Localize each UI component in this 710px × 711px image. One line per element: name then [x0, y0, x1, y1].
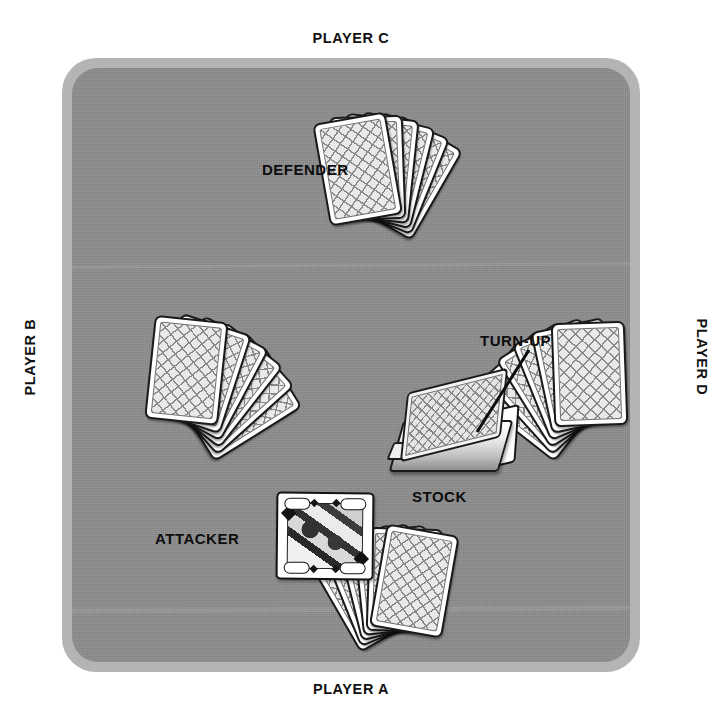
player-label-a: PLAYER A [0, 681, 702, 697]
attacker-label: ATTACKER [155, 530, 239, 547]
turn-up-leader-line [467, 348, 537, 438]
played-card[interactable] [276, 491, 375, 580]
card-corner-index [340, 498, 366, 510]
card-back-pattern [376, 530, 453, 631]
card-corner-index [284, 562, 310, 574]
card-table-rim: D DEFENDER ATTACKER STOCK TURN-UP [62, 58, 640, 672]
stock-label: STOCK [412, 488, 467, 505]
defender-label: DEFENDER [262, 161, 349, 178]
card-back[interactable] [144, 315, 228, 426]
player-label-d: PLAYER D [694, 297, 710, 417]
card-corner-index [284, 498, 310, 510]
card-back-pattern [151, 321, 222, 419]
played-card-frame [287, 503, 364, 570]
card-back-pattern [557, 327, 622, 421]
card-table-felt: D DEFENDER ATTACKER STOCK TURN-UP [72, 68, 630, 662]
player-label-b: PLAYER B [22, 297, 38, 417]
turn-up-label: TURN-UP [480, 332, 551, 349]
felt-band-upper [72, 262, 630, 268]
player-label-c: PLAYER C [0, 30, 702, 46]
card-corner-index [340, 562, 366, 574]
card-back[interactable] [551, 321, 629, 428]
court-card-artwork [288, 504, 363, 569]
